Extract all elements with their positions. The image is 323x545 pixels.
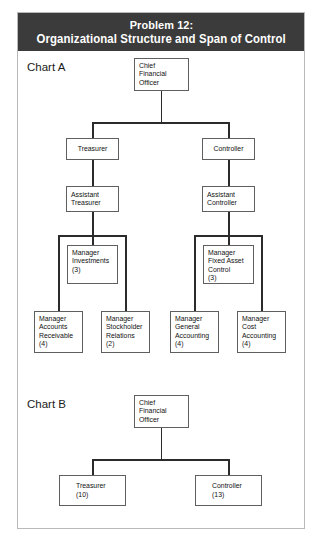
node-assistant-controller-a: Assistant Controller (202, 186, 255, 212)
figure-title-line-1: Problem 12: (129, 18, 193, 32)
node-line: Relations (106, 332, 145, 340)
connector-drop-treasurer-a (92, 122, 94, 139)
node-line: Treasurer (64, 482, 121, 490)
connector-bus-level1-a (92, 122, 230, 124)
node-line: (4) (39, 340, 78, 348)
figure-title-line-2: Organizational Structure and Span of Con… (36, 32, 285, 46)
node-line: (3) (72, 266, 113, 274)
node-line: Chief (139, 62, 184, 70)
node-line: (3) (208, 274, 249, 282)
node-line: Financial (139, 70, 184, 78)
node-treasurer-a: Treasurer (66, 138, 119, 160)
node-line: Accounting (175, 332, 214, 340)
node-line: Controller (207, 145, 250, 153)
connector-asst-controller-stem-a (228, 212, 230, 236)
node-line: Manager (39, 315, 78, 323)
node-line: Treasurer (71, 145, 114, 153)
node-line: Cost (242, 323, 281, 331)
node-assistant-treasurer-a: Assistant Treasurer (66, 186, 119, 212)
node-line: Controller (200, 482, 257, 490)
connector-drop-treasurer-b (92, 459, 94, 476)
node-line: Manager (106, 315, 145, 323)
node-line: Stockholder (106, 323, 145, 331)
figure-title-bar: Problem 12: Organizational Structure and… (18, 13, 304, 51)
node-line: Investments (72, 257, 113, 265)
node-manager-cost-accounting-a: Manager Cost Accounting (4) (237, 311, 286, 353)
connector-asst-treasurer-stem-a (92, 212, 94, 236)
diagram-canvas: Chart A Chief Financial Officer Treasure… (18, 51, 304, 530)
node-line: Chief (139, 399, 184, 407)
node-line: Treasurer (71, 199, 114, 207)
node-treasurer-b: Treasurer (10) (59, 475, 126, 506)
node-line: Officer (139, 416, 184, 424)
node-line: Accounting (242, 332, 281, 340)
connector-drop-stockholder-relations-a (125, 235, 127, 312)
chart-b-label: Chart B (27, 398, 66, 410)
node-line: Manager (242, 315, 281, 323)
node-manager-stockholder-relations-a: Manager Stockholder Relations (2) (101, 311, 150, 353)
node-manager-investments-a: Manager Investments (3) (67, 245, 118, 284)
node-line: Control (208, 266, 249, 274)
node-line: Financial (139, 407, 184, 415)
node-line: Fixed Asset (208, 257, 249, 265)
node-line: Manager (175, 315, 214, 323)
node-line: (10) (64, 491, 121, 499)
node-controller-b: Controller (13) (195, 475, 262, 506)
node-line: (4) (175, 340, 214, 348)
node-chief-financial-officer-b: Chief Financial Officer (134, 395, 189, 428)
connector-drop-general-accounting-a (194, 235, 196, 312)
connector-treasurer-to-asst-a (92, 160, 94, 187)
node-manager-general-accounting-a: Manager General Accounting (4) (170, 311, 219, 353)
node-line: Manager (208, 249, 249, 257)
connector-drop-cost-accounting-a (261, 235, 263, 312)
node-line: Officer (139, 79, 184, 87)
node-chief-financial-officer-a: Chief Financial Officer (134, 58, 189, 91)
node-line: (2) (106, 340, 145, 348)
node-line: General (175, 323, 214, 331)
connector-cfo-a-stem (161, 91, 163, 123)
node-line: Accounts (39, 323, 78, 331)
figure-frame: Problem 12: Organizational Structure and… (17, 12, 305, 529)
node-controller-a: Controller (202, 138, 255, 160)
node-line: Assistant (207, 191, 250, 199)
chart-a-label: Chart A (27, 61, 65, 73)
node-line: Assistant (71, 191, 114, 199)
node-line: Receivable (39, 332, 78, 340)
connector-controller-to-asst-a (228, 160, 230, 187)
connector-drop-controller-a (228, 122, 230, 139)
node-manager-accounts-receivable-a: Manager Accounts Receivable (4) (34, 311, 83, 353)
node-line: Controller (207, 199, 250, 207)
connector-cfo-b-stem (161, 428, 163, 460)
node-manager-fixed-asset-control-a: Manager Fixed Asset Control (3) (203, 245, 254, 284)
connector-drop-controller-b (228, 459, 230, 476)
node-line: Manager (72, 249, 113, 257)
node-line: (4) (242, 340, 281, 348)
connector-drop-accounts-receivable-a (58, 235, 60, 312)
connector-bus-level1-b (92, 459, 230, 461)
node-line: (13) (200, 491, 257, 499)
